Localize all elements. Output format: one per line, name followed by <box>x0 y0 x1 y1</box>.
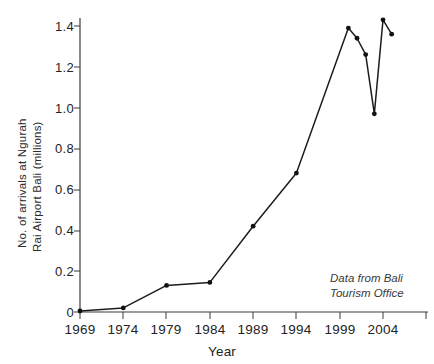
y-tick-label: 0.8 <box>55 141 74 156</box>
data-point <box>372 111 377 116</box>
data-point <box>251 224 256 229</box>
data-point <box>78 309 83 314</box>
annotation-line-2: Tourism Office <box>330 287 404 299</box>
y-tick-label: 0 <box>66 305 74 320</box>
annotation-line-1: Data from Bali <box>330 272 403 284</box>
x-tick-label: 1999 <box>325 322 356 337</box>
x-tick-label: 1974 <box>108 322 139 337</box>
x-tick-label: 1984 <box>195 322 226 337</box>
data-point <box>207 280 212 285</box>
x-tick-label: 2004 <box>368 322 399 337</box>
data-point <box>164 283 169 288</box>
data-point <box>363 52 368 57</box>
y-tick-label: 0.2 <box>55 264 74 279</box>
data-point <box>121 306 126 311</box>
x-tick-label: 1969 <box>65 322 96 337</box>
x-axis-label: Year <box>208 344 236 359</box>
y-tick-label: 0.4 <box>55 223 74 238</box>
data-point <box>346 26 351 31</box>
line-chart-figure: No. of arrivals at Ngurah Rai Airport Ba… <box>0 0 434 364</box>
y-axis-label-line-1: No. of arrivals at Ngurah <box>16 118 28 248</box>
x-tick-label: 1979 <box>151 322 182 337</box>
x-tick-label: 1989 <box>238 322 269 337</box>
x-tick-label: 1994 <box>281 322 312 337</box>
y-tick-label: 1.0 <box>55 101 74 116</box>
y-tick-label: 0.6 <box>55 182 74 197</box>
chart-svg: No. of arrivals at Ngurah Rai Airport Ba… <box>0 0 434 364</box>
y-tick-label: 1.4 <box>55 19 74 34</box>
data-point <box>355 36 360 41</box>
data-point <box>294 171 299 176</box>
y-tick-label: 1.2 <box>55 60 74 75</box>
data-point <box>381 17 386 22</box>
data-point <box>389 32 394 37</box>
y-axis-label-line-2: Rai Airport Bali (millions) <box>31 121 43 252</box>
